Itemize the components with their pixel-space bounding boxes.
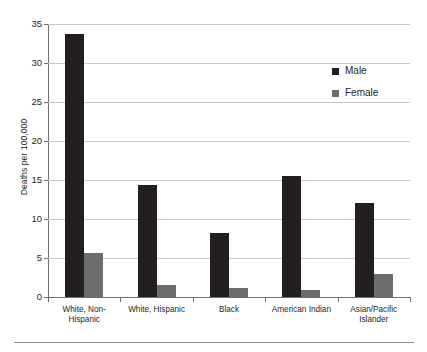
x-axis-category-label-line: Asian/Pacific bbox=[338, 305, 410, 315]
legend-label-male: Male bbox=[345, 66, 367, 76]
x-axis-category-label-line: White, Non- bbox=[48, 305, 120, 315]
x-axis-end-tick bbox=[410, 297, 411, 302]
y-axis-tick-label: 30 bbox=[31, 58, 42, 68]
legend-item-female: Female bbox=[332, 88, 378, 98]
bar-female[interactable] bbox=[84, 253, 103, 297]
bar-group bbox=[48, 24, 120, 297]
bar-male[interactable] bbox=[282, 176, 301, 297]
y-axis-title: Deaths per 100,000 bbox=[19, 77, 29, 237]
x-axis-category-label: White, Hispanic bbox=[120, 305, 192, 315]
bar-female[interactable] bbox=[374, 274, 393, 297]
x-axis-category-label-line: White, Hispanic bbox=[120, 305, 192, 315]
bar-female[interactable] bbox=[229, 288, 248, 297]
y-axis-tick-label: 25 bbox=[31, 97, 42, 107]
bar-group-bars bbox=[265, 24, 337, 297]
category-separator-tick bbox=[338, 297, 339, 302]
bar-chart-figure: Deaths per 100,000 05101520253035 White,… bbox=[0, 0, 427, 352]
x-axis-category-label-line: Black bbox=[193, 305, 265, 315]
x-axis-start-tick bbox=[48, 297, 49, 302]
y-axis-tick-label: 0 bbox=[37, 292, 42, 302]
x-axis-category-label-line: Islander bbox=[338, 315, 410, 325]
bar-group-bars bbox=[193, 24, 265, 297]
y-axis-tick-label: 10 bbox=[31, 214, 42, 224]
y-axis-tick-label: 5 bbox=[37, 253, 42, 263]
footer-divider bbox=[14, 342, 414, 343]
y-axis-tick-label: 20 bbox=[31, 136, 42, 146]
legend-item-male: Male bbox=[332, 66, 378, 76]
bar-female[interactable] bbox=[157, 285, 176, 297]
legend-label-female: Female bbox=[345, 88, 378, 98]
bar-group-bars bbox=[120, 24, 192, 297]
x-axis-category-label: Black bbox=[193, 305, 265, 315]
legend-swatch-female-icon bbox=[332, 90, 339, 97]
bar-male[interactable] bbox=[210, 233, 229, 297]
x-axis-category-label-line: Hispanic bbox=[48, 315, 120, 325]
bar-male[interactable] bbox=[138, 185, 157, 297]
bar-female[interactable] bbox=[301, 290, 320, 297]
x-axis-category-label: White, Non-Hispanic bbox=[48, 305, 120, 325]
bar-group bbox=[193, 24, 265, 297]
category-separator-tick bbox=[193, 297, 194, 302]
x-axis-category-label-line: American Indian bbox=[265, 305, 337, 315]
legend-swatch-male-icon bbox=[332, 68, 339, 75]
x-axis-line bbox=[48, 297, 410, 298]
bar-male[interactable] bbox=[65, 34, 84, 297]
category-separator-tick bbox=[120, 297, 121, 302]
y-axis-tick-label: 15 bbox=[31, 175, 42, 185]
bar-group bbox=[120, 24, 192, 297]
bar-group-bars bbox=[48, 24, 120, 297]
category-separator-tick bbox=[265, 297, 266, 302]
x-axis-category-label: Asian/PacificIslander bbox=[338, 305, 410, 325]
bar-male[interactable] bbox=[355, 203, 374, 297]
y-axis-tick-label: 35 bbox=[31, 19, 42, 29]
bar-group bbox=[265, 24, 337, 297]
x-axis-category-label: American Indian bbox=[265, 305, 337, 315]
chart-legend: Male Female bbox=[332, 66, 378, 110]
